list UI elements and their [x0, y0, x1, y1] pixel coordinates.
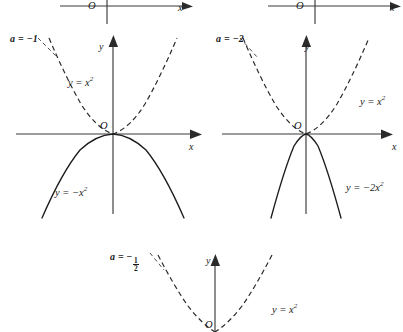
panel-3-reference-curve-label: y = x2	[272, 303, 297, 315]
top-right-origin-label: O	[296, 1, 304, 12]
top-left-origin-label: O	[88, 1, 96, 12]
panel-1-reference-curve-label: y = x2	[68, 76, 93, 88]
panel-3-parameter-prefix: a =	[110, 251, 127, 262]
panel-1-transformed-curve-label: y = −x2	[55, 186, 87, 198]
panel-3-reference-curve-text: y = x	[272, 304, 294, 315]
panel-2-reference-curve-exponent: 2	[382, 94, 386, 102]
panel-3-origin-label: O	[205, 320, 213, 331]
panel-3-reference-curve-exponent: 2	[294, 302, 298, 310]
panel-3-parameter-fraction: 12	[133, 257, 139, 273]
panel-2-parameter-label: a = −2	[216, 34, 244, 44]
panel-2-y-axis-label: y	[305, 42, 309, 52]
panel-a-equals-negative-one	[16, 32, 211, 224]
panel-1-transformed-curve-exponent: 2	[84, 185, 88, 193]
panel-1-parameter-label: a = −1	[10, 34, 38, 44]
top-left-x-axis-label: x	[178, 3, 182, 13]
panel-2-x-axis-label: x	[392, 142, 396, 152]
panel-1-reference-curve-exponent: 2	[90, 75, 94, 83]
panel-2-reference-curve-label: y = x2	[360, 95, 385, 107]
panel-2-transformed-curve-text: y = −2x	[346, 182, 380, 193]
panel-2-origin-label: O	[294, 121, 302, 132]
panel-3-parameter-sign: −	[127, 251, 133, 262]
panel-2-reference-curve-text: y = x	[360, 96, 382, 107]
panel-1-origin-label: O	[100, 121, 108, 132]
panel-2-transformed-curve-label: y = −2x2	[346, 181, 384, 193]
panel-3-parameter-denominator: 2	[133, 264, 139, 273]
parabola-transformation-figure: O x O x a = −1 O x y y = x2	[0, 0, 403, 332]
top-cropped-panel-right	[268, 0, 403, 24]
panel-1-reference-curve-text: y = x	[68, 77, 90, 88]
panel-1-transformed-curve-text: y = −x	[55, 187, 84, 198]
panel-3-parameter-label: a = −12	[110, 252, 139, 273]
panel-1-y-axis-label: y	[99, 42, 103, 52]
top-right-x-axis-label: x	[390, 3, 394, 13]
panel-2-transformed-curve-exponent: 2	[380, 180, 384, 188]
panel-1-x-axis-label: x	[189, 142, 193, 152]
panel-a-equals-negative-one-half	[130, 248, 310, 332]
panel-a-equals-negative-two	[222, 32, 403, 224]
panel-3-y-axis-label: y	[206, 256, 210, 266]
panel-3-parameter-numerator: 1	[133, 257, 139, 265]
